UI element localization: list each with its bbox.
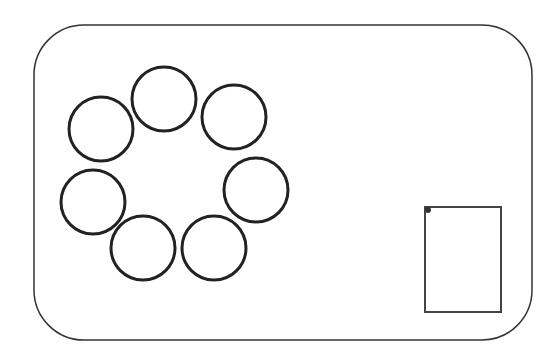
circle-top-left xyxy=(69,97,133,161)
circle-ring xyxy=(61,67,288,280)
circle-top xyxy=(132,67,196,131)
circle-bottom-right xyxy=(182,216,246,280)
diagram-canvas xyxy=(0,0,560,364)
rectangle-box xyxy=(425,207,501,312)
circle-top-right xyxy=(202,85,266,149)
circle-right xyxy=(224,158,288,222)
circle-left xyxy=(61,170,125,234)
corner-dot xyxy=(425,207,431,213)
circle-bottom-left xyxy=(111,216,175,280)
rounded-frame xyxy=(34,25,532,340)
